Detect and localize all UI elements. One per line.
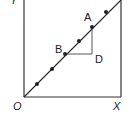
point-b (63, 52, 67, 56)
label-origin: O (13, 100, 22, 112)
label-y-axis: Y (10, 0, 18, 6)
label-a: A (84, 11, 92, 23)
label-x-axis: X (112, 100, 121, 112)
label-d: D (95, 53, 103, 65)
point-a (90, 25, 94, 29)
point-6 (104, 10, 108, 14)
point-1 (35, 82, 39, 86)
point-2 (50, 67, 54, 71)
point-4 (77, 39, 81, 43)
diagram-canvas: A B D O X Y (0, 0, 130, 120)
label-b: B (55, 43, 62, 55)
diagonal-line (24, 0, 121, 97)
